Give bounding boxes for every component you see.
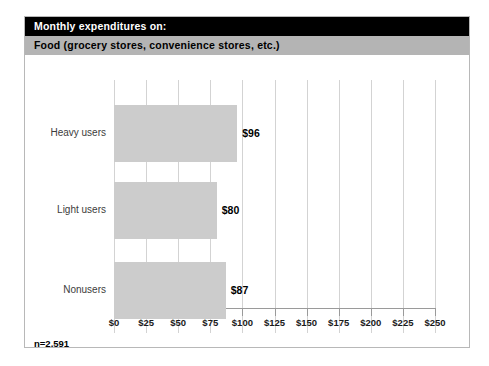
axis-tick-200 <box>371 308 372 316</box>
gridline-125 <box>275 80 276 333</box>
chart-title: Monthly expenditures on: <box>34 20 167 32</box>
chart-figure: Monthly expenditures on: Food (grocery s… <box>24 16 470 348</box>
bar-heavy-users <box>114 105 237 162</box>
value-label-heavy-users: $96 <box>242 127 260 139</box>
axis-tick-100 <box>242 308 243 316</box>
category-label-light-users: Light users <box>25 204 106 215</box>
chart-title-band: Monthly expenditures on: <box>25 17 469 36</box>
gridline-175 <box>339 80 340 333</box>
gridline-250 <box>435 80 436 333</box>
value-label-nonusers: $87 <box>231 284 249 296</box>
chart-subtitle: Food (grocery stores, convenience stores… <box>34 39 280 51</box>
axis-tick-250 <box>435 308 436 316</box>
chart-subtitle-band: Food (grocery stores, convenience stores… <box>25 36 469 55</box>
category-label-heavy-users: Heavy users <box>25 127 106 138</box>
axis-tick-125 <box>275 308 276 316</box>
bar-light-users <box>114 182 217 239</box>
gridline-150 <box>307 80 308 333</box>
plot-area: Heavy usersLight usersNonusers $96$80$87… <box>25 55 469 348</box>
gridline-200 <box>371 80 372 333</box>
x-tick-label-250: $250 <box>415 317 455 328</box>
axis-tick-175 <box>339 308 340 316</box>
bar-nonusers <box>114 262 226 319</box>
axis-tick-150 <box>307 308 308 316</box>
gridline-225 <box>403 80 404 333</box>
axis-tick-225 <box>403 308 404 316</box>
sample-size-note: n=2,591 <box>34 338 69 348</box>
category-label-nonusers: Nonusers <box>25 284 106 295</box>
value-label-light-users: $80 <box>222 204 240 216</box>
